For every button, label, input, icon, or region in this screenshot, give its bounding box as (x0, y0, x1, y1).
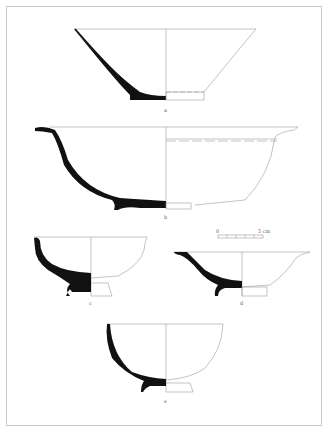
vessel-e-drawing (107, 324, 223, 392)
vessel-c-drawing (34, 237, 147, 296)
scale-end-label: 5 cm (258, 228, 270, 234)
vessel-a-drawing (74, 29, 256, 100)
scale-bar (218, 235, 263, 238)
vessel-c-label: c (89, 300, 92, 306)
vessel-e-label: e (164, 398, 167, 404)
vessel-b-label: b (164, 214, 167, 220)
vessel-d-label: d (240, 300, 243, 306)
vessel-a-label: a (164, 107, 167, 113)
scale-start-label: 0 (216, 228, 219, 234)
vessel-b-drawing (35, 127, 298, 210)
vessel-d-drawing (174, 252, 310, 296)
